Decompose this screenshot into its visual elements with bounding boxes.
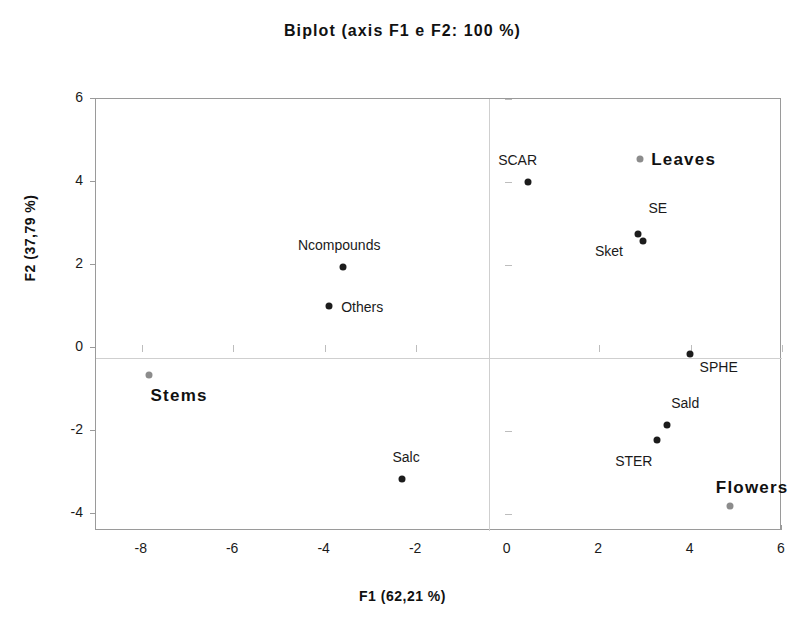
- y-zero-axis-line: [489, 99, 490, 531]
- x-inner-tick: [416, 345, 417, 352]
- point-label-se: SE: [648, 200, 667, 216]
- x-axis-title: F1 (62,21 %): [0, 588, 805, 604]
- y-inner-tick: [505, 99, 512, 100]
- x-inner-tick: [142, 345, 143, 352]
- data-point-salc[interactable]: [399, 476, 406, 483]
- point-label-others: Others: [341, 299, 383, 315]
- data-point-ncompounds[interactable]: [339, 263, 346, 270]
- y-tick-label: -4: [35, 504, 83, 520]
- point-label-sket: Sket: [595, 243, 623, 259]
- x-tick-label: -6: [212, 540, 252, 556]
- y-inner-tick: [505, 431, 512, 432]
- y-tick-label: 4: [35, 172, 83, 188]
- point-label-sphe: SPHE: [700, 359, 738, 375]
- point-label-leaves: Leaves: [651, 150, 716, 170]
- point-label-scar: SCAR: [498, 152, 537, 168]
- x-tick-label: 0: [487, 540, 527, 556]
- x-tick-label: -2: [395, 540, 435, 556]
- x-tick-label: -8: [121, 540, 161, 556]
- x-inner-tick: [599, 345, 600, 352]
- point-label-ster: STER: [615, 453, 652, 469]
- data-point-se[interactable]: [635, 231, 642, 238]
- x-inner-tick: [782, 345, 783, 352]
- y-inner-tick: [505, 182, 512, 183]
- x-inner-tick: [233, 345, 234, 352]
- plot-area: SCARSESketNcompoundsOthersSPHESaldSTERSa…: [95, 98, 781, 530]
- point-label-ncompounds: Ncompounds: [298, 237, 381, 253]
- data-point-scar[interactable]: [525, 179, 532, 186]
- data-point-sket[interactable]: [639, 238, 646, 245]
- x-tick-mark: [781, 525, 782, 530]
- x-inner-tick: [325, 345, 326, 352]
- data-point-sald[interactable]: [664, 422, 671, 429]
- point-label-salc: Salc: [392, 449, 419, 465]
- y-tick-label: 2: [35, 255, 83, 271]
- x-tick-label: -4: [304, 540, 344, 556]
- x-tick-label: 6: [761, 540, 801, 556]
- data-point-others[interactable]: [326, 302, 333, 309]
- x-zero-axis-line: [96, 358, 782, 359]
- point-label-sald: Sald: [671, 395, 699, 411]
- y-inner-tick: [505, 514, 512, 515]
- data-point-flowers[interactable]: [726, 503, 733, 510]
- y-tick-label: 0: [35, 338, 83, 354]
- x-tick-label: 2: [578, 540, 618, 556]
- y-tick-label: 6: [35, 89, 83, 105]
- y-tick-label: -2: [35, 421, 83, 437]
- biplot-chart: Biplot (axis F1 e F2: 100 %) F2 (37,79 %…: [0, 0, 805, 625]
- point-label-flowers: Flowers: [716, 478, 789, 498]
- data-point-leaves[interactable]: [637, 156, 644, 163]
- chart-title: Biplot (axis F1 e F2: 100 %): [0, 22, 805, 40]
- y-inner-tick: [505, 265, 512, 266]
- data-point-stems[interactable]: [145, 372, 152, 379]
- data-point-sphe[interactable]: [686, 351, 693, 358]
- x-tick-label: 4: [670, 540, 710, 556]
- point-label-stems: Stems: [151, 386, 208, 406]
- data-point-ster[interactable]: [654, 436, 661, 443]
